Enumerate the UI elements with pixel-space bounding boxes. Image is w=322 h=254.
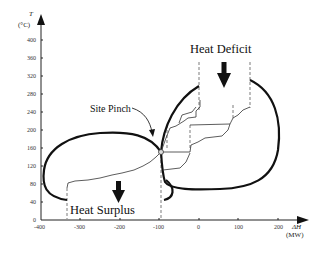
y-axis: T (°C) 400 360 320 280 240 200 160 120 8… [18, 10, 45, 223]
heat-deficit-envelope [161, 80, 279, 189]
heat-deficit-composite-5 [179, 107, 196, 123]
svg-text:320: 320 [27, 73, 36, 79]
svg-text:-100: -100 [153, 224, 164, 230]
heat-deficit-composite-2 [161, 107, 250, 152]
svg-text:0: 0 [33, 217, 36, 223]
site-pinch-arrow-icon [149, 129, 155, 137]
svg-text:280: 280 [27, 91, 36, 97]
heat-surplus-envelope [43, 133, 161, 200]
heat-surplus-arrow-shaft [116, 181, 121, 191]
y-axis-arrow-icon [37, 14, 45, 25]
x-axis-unit: (MW) [286, 231, 304, 239]
svg-text:360: 360 [27, 55, 36, 61]
x-axis-label: ΔH [291, 223, 302, 231]
svg-text:240: 240 [27, 109, 36, 115]
svg-text:400: 400 [27, 37, 36, 43]
site-pinch-label: Site Pinch [90, 103, 131, 114]
heat-deficit-composite-3 [163, 153, 190, 170]
svg-text:200: 200 [274, 224, 283, 230]
heat-surplus-arrow-icon [112, 190, 125, 203]
heat-deficit-arrow-icon [217, 73, 231, 88]
svg-text:100: 100 [234, 224, 243, 230]
y-axis-label: T [29, 10, 34, 18]
svg-text:160: 160 [27, 145, 36, 151]
svg-text:-400: -400 [34, 224, 45, 230]
svg-text:80: 80 [30, 181, 36, 187]
heat-deficit-label: Heat Deficit [190, 42, 252, 56]
heat-surplus-label: Heat Surplus [70, 203, 135, 217]
svg-text:0: 0 [197, 224, 200, 230]
grand-composite-chart: T (°C) 400 360 320 280 240 200 160 120 8… [0, 0, 322, 254]
site-pinch-marker [159, 150, 164, 155]
y-axis-unit: (°C) [18, 21, 31, 29]
heat-deficit-composite-4 [190, 124, 230, 125]
heat-deficit-arrow-shaft [222, 62, 227, 74]
svg-text:-300: -300 [74, 224, 85, 230]
svg-text:40: 40 [30, 199, 36, 205]
heat-surplus-composite [67, 152, 161, 188]
svg-text:200: 200 [27, 127, 36, 133]
site-pinch-pointer [132, 108, 152, 132]
x-axis: ΔH (MW) -400 -300 -200 -100 0 100 200 [34, 216, 309, 239]
svg-text:120: 120 [27, 163, 36, 169]
svg-text:-200: -200 [114, 224, 125, 230]
dashed-guides [67, 62, 250, 219]
